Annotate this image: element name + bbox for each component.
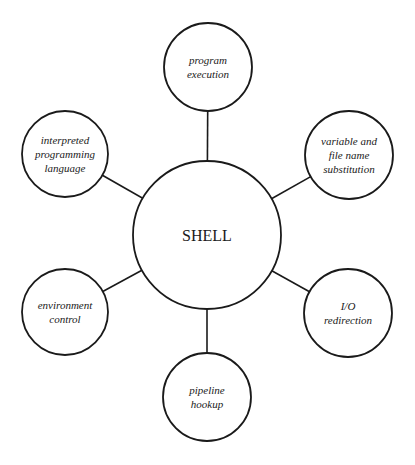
node-circle xyxy=(22,269,108,355)
node-label-line: program xyxy=(188,54,227,66)
node-circle xyxy=(164,23,252,111)
node-label-line: control xyxy=(49,313,80,325)
node-label-line: environment xyxy=(38,299,94,311)
node-interpreted-programming-language: interpretedprogramminglanguage xyxy=(22,111,108,197)
node-label-line: programming xyxy=(34,148,96,160)
node-environment-control: environmentcontrol xyxy=(22,269,108,355)
center-node: SHELL xyxy=(133,161,281,309)
node-io-redirection: I/Oredirection xyxy=(304,269,392,357)
node-label-line: variable and xyxy=(321,135,377,147)
diagram-canvas: programexecutionvariable andfile namesub… xyxy=(0,0,415,465)
node-label-line: file name xyxy=(329,149,370,161)
shell-features-diagram: programexecutionvariable andfile namesub… xyxy=(0,0,415,465)
node-circle xyxy=(304,269,392,357)
node-label-line: execution xyxy=(187,68,230,80)
node-variable-file-name-substitution: variable andfile namesubstitution xyxy=(305,111,393,199)
node-label-line: hookup xyxy=(191,398,224,410)
node-label-line: language xyxy=(45,162,86,174)
node-pipeline-hookup: pipelinehookup xyxy=(163,353,251,441)
node-label-line: I/O xyxy=(340,300,356,312)
edge-io-redirection xyxy=(272,271,310,292)
node-program-execution: programexecution xyxy=(164,23,252,111)
edge-variable-file-name-substitution xyxy=(272,177,311,199)
node-label-line: interpreted xyxy=(41,134,90,146)
edge-environment-control xyxy=(103,270,142,291)
node-label-line: substitution xyxy=(323,163,375,175)
node-circle xyxy=(163,353,251,441)
center-label: SHELL xyxy=(182,227,232,244)
node-label-line: redirection xyxy=(324,314,373,326)
edge-interpreted-programming-language xyxy=(102,175,142,198)
node-label-line: pipeline xyxy=(188,384,225,396)
